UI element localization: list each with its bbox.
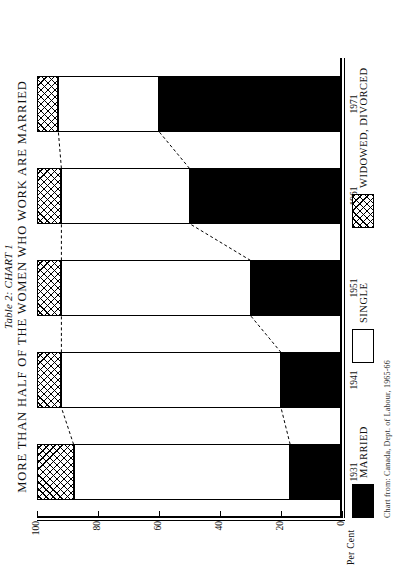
legend-swatch-widowed-icon (352, 194, 374, 228)
chart-figure: Table 2: CHART 1 MORE THAN HALF OF THE W… (0, 0, 399, 573)
connector-lines (37, 58, 342, 518)
legend-item-married: MARRIED (352, 426, 374, 518)
y-tick-label: 0 (336, 521, 346, 526)
legend-label-single: SINGLE (358, 283, 369, 323)
legend-item-single: SINGLE (352, 283, 374, 363)
y-axis-title: Per Cent (346, 530, 356, 565)
legend-swatch-married-icon (352, 484, 374, 518)
source-note: Chart from: Canada, Dept. of Labour, 196… (383, 360, 392, 518)
legend-swatch-single-icon (352, 329, 374, 363)
y-tick-label: 40 (214, 521, 224, 531)
title-block: Table 2: CHART 1 MORE THAN HALF OF THE W… (2, 0, 30, 573)
table-label: Table 2: CHART 1 (2, 0, 14, 573)
y-tick-0: 0 (342, 511, 343, 518)
legend-item-widowed: WIDOWED, DIVORCED (352, 68, 374, 228)
chart-title: MORE THAN HALF OF THE WOMEN WHO WORK ARE… (15, 0, 30, 573)
y-tick-label: 60 (153, 521, 163, 531)
plot-area: Per Cent 020406080100 193119411951196119… (37, 58, 342, 518)
y-tick-label: 80 (92, 521, 102, 531)
y-tick-label: 100 (31, 521, 41, 535)
legend-label-widowed: WIDOWED, DIVORCED (358, 68, 369, 188)
y-tick-label: 20 (275, 521, 285, 531)
legend-label-married: MARRIED (358, 426, 369, 478)
